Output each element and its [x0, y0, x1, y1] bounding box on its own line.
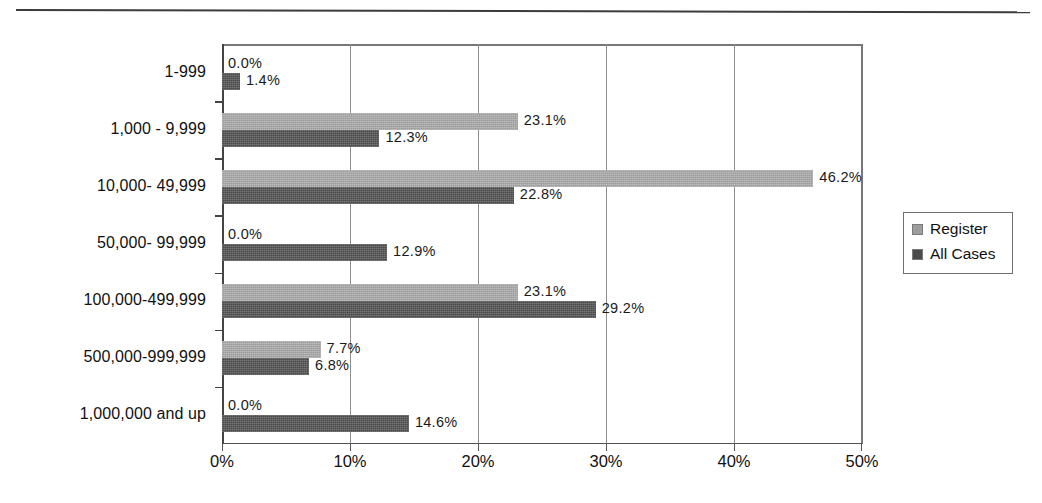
bar-register — [222, 170, 813, 187]
x-tick-30 — [606, 443, 607, 451]
bar-group: 23.1%12.3% — [222, 113, 862, 147]
x-axis-label: 20% — [461, 452, 494, 471]
bar-register — [222, 113, 518, 130]
bar-value-label: 23.1% — [524, 112, 567, 128]
x-tick-20 — [478, 443, 479, 451]
bar-value-label: 14.6% — [415, 414, 458, 430]
x-axis-label: 0% — [210, 452, 234, 471]
bar-value-label: 12.3% — [385, 129, 428, 145]
plot-area: 0.0%1.4%23.1%12.3%46.2%22.8%0.0%12.9%23.… — [222, 44, 862, 444]
bar-value-label: 29.2% — [602, 300, 645, 316]
bar-group: 0.0%14.6% — [222, 398, 862, 432]
plot-border-top — [222, 44, 862, 46]
x-axis-label: 40% — [717, 452, 750, 471]
category-label: 1-999 — [6, 63, 206, 81]
chart-legend: RegisterAll Cases — [903, 212, 1013, 274]
bar-value-label: 0.0% — [228, 397, 262, 413]
x-axis-label: 10% — [333, 452, 366, 471]
category-label: 100,000-499,999 — [6, 291, 206, 309]
bar-register — [222, 341, 321, 358]
x-axis-label: 30% — [589, 452, 622, 471]
bar-value-label: 0.0% — [228, 226, 262, 242]
bar-allcases — [222, 244, 387, 261]
category-label: 10,000- 49,999 — [6, 177, 206, 195]
bar-group: 0.0%1.4% — [222, 56, 862, 90]
category-label: 500,000-999,999 — [6, 348, 206, 366]
legend-item: All Cases — [912, 245, 995, 263]
bar-value-label: 46.2% — [819, 169, 862, 185]
bar-allcases — [222, 130, 379, 147]
y-tick-6 — [215, 387, 222, 389]
legend-swatch-icon — [912, 224, 923, 235]
bar-allcases — [222, 415, 409, 432]
legend-label: All Cases — [930, 245, 995, 263]
bar-group: 23.1%29.2% — [222, 284, 862, 318]
category-axis-labels: 1-9991,000 - 9,99910,000- 49,99950,000- … — [0, 44, 206, 444]
legend-item: Register — [912, 220, 988, 238]
y-tick-5 — [215, 330, 222, 332]
bar-value-label: 0.0% — [228, 55, 262, 71]
bar-allcases — [222, 301, 596, 318]
bar-value-label: 12.9% — [393, 243, 436, 259]
bar-group: 46.2%22.8% — [222, 170, 862, 204]
legend-swatch-icon — [912, 249, 923, 260]
bar-value-label: 1.4% — [246, 72, 280, 88]
bar-value-label: 7.7% — [327, 340, 361, 356]
category-label: 1,000,000 and up — [6, 405, 206, 423]
bar-value-label: 23.1% — [524, 283, 567, 299]
bar-allcases — [222, 73, 240, 90]
bar-group: 7.7%6.8% — [222, 341, 862, 375]
bar-value-label: 6.8% — [315, 357, 349, 373]
grouped-bar-chart: 1-9991,000 - 9,99910,000- 49,99950,000- … — [0, 0, 1042, 503]
x-axis-label: 50% — [845, 452, 878, 471]
y-tick-3 — [215, 215, 222, 217]
y-tick-4 — [215, 273, 222, 275]
x-tick-50 — [861, 443, 862, 451]
x-tick-0 — [222, 443, 223, 451]
y-tick-2 — [215, 158, 222, 160]
legend-label: Register — [930, 220, 988, 238]
x-tick-40 — [734, 443, 735, 451]
x-tick-10 — [350, 443, 351, 451]
category-label: 1,000 - 9,999 — [6, 120, 206, 138]
bar-value-label: 22.8% — [520, 186, 563, 202]
bar-group: 0.0%12.9% — [222, 227, 862, 261]
bar-allcases — [222, 187, 514, 204]
category-label: 50,000- 99,999 — [6, 234, 206, 252]
bar-register — [222, 284, 518, 301]
plot-axis-baseline — [222, 443, 862, 445]
x-axis-tick-labels: 0%10%20%30%40%50% — [222, 452, 862, 478]
y-tick-1 — [215, 101, 222, 103]
bar-allcases — [222, 358, 309, 375]
